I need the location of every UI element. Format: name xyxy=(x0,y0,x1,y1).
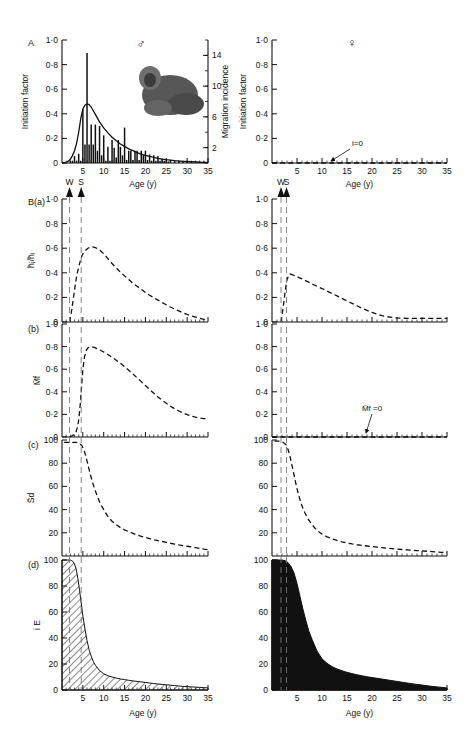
svg-text:60: 60 xyxy=(49,607,59,617)
svg-text:i=0: i=0 xyxy=(352,139,363,148)
svg-text:0·2: 0·2 xyxy=(46,292,59,302)
svg-text:0·8: 0·8 xyxy=(256,219,269,229)
svg-text:M̄f =0: M̄f =0 xyxy=(362,404,383,413)
svg-text:14: 14 xyxy=(212,50,222,60)
svg-text:0·8: 0·8 xyxy=(256,60,269,70)
svg-text:Age (y): Age (y) xyxy=(129,708,157,718)
svg-text:0: 0 xyxy=(263,158,268,168)
svg-text:80: 80 xyxy=(259,581,269,591)
svg-text:15: 15 xyxy=(120,166,130,176)
svg-text:100: 100 xyxy=(254,435,268,445)
svg-text:M̄f: M̄f xyxy=(32,375,42,385)
svg-text:25: 25 xyxy=(162,166,172,176)
svg-text:25: 25 xyxy=(392,693,402,703)
svg-text:6: 6 xyxy=(212,112,217,122)
svg-text:20: 20 xyxy=(49,528,59,538)
svg-text:25: 25 xyxy=(392,166,402,176)
svg-text:0·6: 0·6 xyxy=(46,84,59,94)
svg-text:0·4: 0·4 xyxy=(256,387,269,397)
svg-text:80: 80 xyxy=(259,458,269,468)
svg-text:Initiation factor: Initiation factor xyxy=(238,74,248,129)
svg-text:1·0: 1·0 xyxy=(46,194,59,204)
svg-text:100: 100 xyxy=(44,435,58,445)
svg-text:15: 15 xyxy=(342,693,352,703)
svg-text:0·4: 0·4 xyxy=(46,387,59,397)
svg-text:Age (y): Age (y) xyxy=(346,179,374,189)
svg-text:0·4: 0·4 xyxy=(256,109,269,119)
svg-text:20: 20 xyxy=(141,693,151,703)
svg-text:15: 15 xyxy=(342,166,352,176)
svg-text:S: S xyxy=(284,177,290,187)
svg-text:5: 5 xyxy=(295,693,300,703)
svg-text:20: 20 xyxy=(49,659,59,669)
svg-text:25: 25 xyxy=(162,693,172,703)
svg-text:0·8: 0·8 xyxy=(46,219,59,229)
svg-text:5: 5 xyxy=(295,166,300,176)
svg-text:20: 20 xyxy=(367,693,377,703)
svg-text:100: 100 xyxy=(254,555,268,565)
svg-text:♂: ♂ xyxy=(137,37,146,51)
svg-text:h̄ⱼ/h̄ᵢ: h̄ⱼ/h̄ᵢ xyxy=(26,253,36,268)
svg-text:40: 40 xyxy=(49,505,59,515)
svg-text:1·0: 1·0 xyxy=(46,35,59,45)
svg-text:1·0: 1·0 xyxy=(46,319,59,329)
svg-text:0·6: 0·6 xyxy=(256,84,269,94)
svg-text:1·0: 1·0 xyxy=(256,35,269,45)
svg-text:0·8: 0·8 xyxy=(46,342,59,352)
svg-text:10: 10 xyxy=(317,166,327,176)
svg-text:0: 0 xyxy=(263,685,268,695)
svg-text:A: A xyxy=(28,38,34,48)
svg-text:40: 40 xyxy=(259,505,269,515)
svg-text:0·4: 0·4 xyxy=(46,109,59,119)
svg-text:10: 10 xyxy=(99,693,109,703)
svg-text:80: 80 xyxy=(49,458,59,468)
svg-text:0·2: 0·2 xyxy=(46,133,59,143)
svg-text:(d): (d) xyxy=(28,560,39,570)
svg-text:80: 80 xyxy=(49,581,59,591)
svg-text:5: 5 xyxy=(80,693,85,703)
svg-text:35: 35 xyxy=(203,693,213,703)
svg-text:0·6: 0·6 xyxy=(256,364,269,374)
svg-text:Initiation factor: Initiation factor xyxy=(20,74,30,129)
svg-text:40: 40 xyxy=(49,633,59,643)
svg-text:30: 30 xyxy=(417,166,427,176)
svg-text:i E: i E xyxy=(32,620,42,630)
svg-text:10: 10 xyxy=(99,166,109,176)
svg-text:0·4: 0·4 xyxy=(256,268,269,278)
svg-text:0: 0 xyxy=(53,158,58,168)
svg-text:W: W xyxy=(65,177,73,187)
svg-text:0·8: 0·8 xyxy=(256,342,269,352)
svg-text:20: 20 xyxy=(367,166,377,176)
svg-text:60: 60 xyxy=(259,607,269,617)
svg-text:♀: ♀ xyxy=(348,36,357,50)
svg-text:S: S xyxy=(78,177,84,187)
svg-text:Migration incidence: Migration incidence xyxy=(220,65,230,139)
svg-text:0·2: 0·2 xyxy=(256,409,269,419)
svg-text:2: 2 xyxy=(212,143,217,153)
svg-text:20: 20 xyxy=(259,528,269,538)
svg-text:100: 100 xyxy=(44,555,58,565)
svg-text:Age (y): Age (y) xyxy=(346,708,374,718)
svg-text:30: 30 xyxy=(182,693,192,703)
svg-text:30: 30 xyxy=(182,166,192,176)
svg-text:30: 30 xyxy=(417,693,427,703)
svg-text:Age (y): Age (y) xyxy=(129,179,157,189)
svg-text:0: 0 xyxy=(53,685,58,695)
figure-svg: 510152025303500·20·40·60·81·0261014AInit… xyxy=(0,0,471,731)
svg-text:10: 10 xyxy=(317,693,327,703)
svg-text:20: 20 xyxy=(259,659,269,669)
svg-text:0·2: 0·2 xyxy=(256,133,269,143)
svg-text:35: 35 xyxy=(203,166,213,176)
svg-text:60: 60 xyxy=(49,481,59,491)
svg-text:35: 35 xyxy=(442,693,452,703)
svg-text:(c): (c) xyxy=(28,440,39,450)
svg-text:0·2: 0·2 xyxy=(46,409,59,419)
svg-text:20: 20 xyxy=(141,166,151,176)
figure-root: 510152025303500·20·40·60·81·0261014AInit… xyxy=(0,0,471,731)
svg-text:15: 15 xyxy=(120,693,130,703)
svg-text:40: 40 xyxy=(259,633,269,643)
svg-text:0·4: 0·4 xyxy=(46,268,59,278)
svg-text:0·6: 0·6 xyxy=(46,243,59,253)
svg-text:35: 35 xyxy=(442,166,452,176)
svg-text:60: 60 xyxy=(259,481,269,491)
